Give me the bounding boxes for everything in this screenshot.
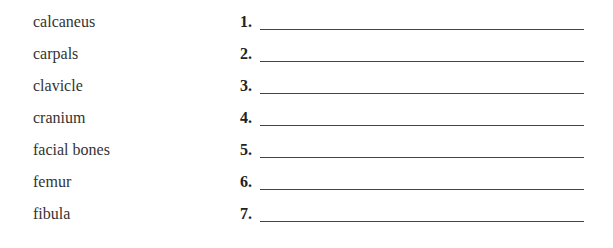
answer-blank[interactable] xyxy=(260,29,584,30)
list-item: facial bones 5. xyxy=(0,140,613,172)
list-item: femur 6. xyxy=(0,172,613,204)
answer-blank[interactable] xyxy=(260,125,584,126)
term-label: facial bones xyxy=(33,140,110,160)
item-number: 4. xyxy=(240,108,252,128)
answer-blank[interactable] xyxy=(260,189,584,190)
answer-blank[interactable] xyxy=(260,221,584,222)
list-item: calcaneus 1. xyxy=(0,12,613,44)
list-item: carpals 2. xyxy=(0,44,613,76)
item-number: 5. xyxy=(240,140,252,160)
term-label: fibula xyxy=(33,204,70,224)
item-number: 2. xyxy=(240,44,252,64)
answer-blank[interactable] xyxy=(260,157,584,158)
answer-blank[interactable] xyxy=(260,93,584,94)
item-number: 7. xyxy=(240,204,252,224)
term-label: clavicle xyxy=(33,76,83,96)
answer-blank[interactable] xyxy=(260,61,584,62)
item-number: 3. xyxy=(240,76,252,96)
list-item: fibula 7. xyxy=(0,204,613,236)
list-item: cranium 4. xyxy=(0,108,613,140)
item-number: 6. xyxy=(240,172,252,192)
item-number: 1. xyxy=(240,12,252,32)
term-label: calcaneus xyxy=(33,12,95,32)
term-label: femur xyxy=(33,172,71,192)
list-item: clavicle 3. xyxy=(0,76,613,108)
term-label: carpals xyxy=(33,44,78,64)
term-label: cranium xyxy=(33,108,85,128)
